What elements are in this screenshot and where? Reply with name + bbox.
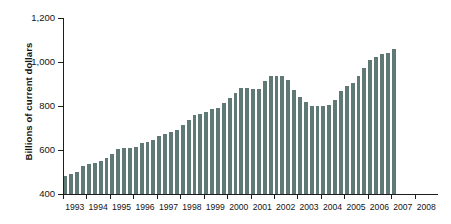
bar [310,106,315,194]
y-axis-tick-label: 600 [1,144,55,155]
bar [110,154,115,194]
x-axis-tick [274,194,275,199]
bar [298,97,303,194]
x-axis-tick [321,194,322,199]
bar [239,88,244,194]
bar [146,142,151,194]
y-axis-tick-label: 1,200 [1,12,55,23]
x-axis-tick [227,194,228,199]
bar [134,147,139,194]
bar [187,120,192,194]
bar [157,136,162,194]
plot-area: 4006008001,0001,200 19931994199519961997… [63,18,438,194]
bar [269,76,274,194]
x-axis-tick [133,194,134,199]
bar [357,76,362,194]
x-axis-tick [368,194,369,199]
bar [198,114,203,194]
x-axis-tick [297,194,298,199]
bar [386,53,391,194]
x-axis-tick [110,194,111,199]
bar [222,103,227,194]
x-axis-tick [344,194,345,199]
bar [175,130,180,194]
bar [99,161,104,194]
bar [81,166,86,194]
bar [362,68,367,194]
bar [327,105,332,194]
bar [245,88,250,194]
bar [151,140,156,194]
x-axis-tick [63,194,64,199]
bar [321,106,326,194]
bar [234,93,239,194]
bar [169,132,174,194]
bar [263,81,268,194]
bar [339,91,344,194]
x-axis-tick-label: 2008 [406,202,446,212]
bar [374,57,379,194]
bar [292,90,297,195]
y-axis-tick-label: 400 [1,188,55,199]
bar [64,176,69,194]
y-axis-tick-label: 800 [1,100,55,111]
bar [275,76,280,194]
bar [87,164,92,194]
bar [216,108,221,194]
bar [163,134,168,194]
bar [116,149,121,194]
bar [251,89,256,194]
bar [257,89,262,194]
bar [228,98,233,194]
bar [140,143,145,194]
bar [105,158,110,194]
y-axis-tick [58,150,64,151]
bar [193,115,198,194]
bar [286,80,291,194]
bar [204,112,209,194]
bar [93,163,98,194]
y-axis-tick [58,106,64,107]
bar [128,148,133,194]
bar [181,125,186,194]
bar [368,60,373,194]
bar [351,83,356,194]
bar [392,49,397,194]
x-axis-tick [157,194,158,199]
y-axis-tick-label: 1,000 [1,56,55,67]
y-axis-tick [58,18,64,19]
bar [316,106,321,194]
x-axis-tick [180,194,181,199]
x-axis-tick [251,194,252,199]
bar [380,54,385,194]
quarterly-bar-chart: Billions of current dollars 4006008001,0… [0,0,451,224]
bar [333,100,338,194]
bar [304,102,309,194]
bar [75,172,80,194]
bar [210,109,215,194]
x-axis-tick [415,194,416,199]
bar [122,148,127,194]
x-axis-tick [391,194,392,199]
bar [69,174,74,194]
x-axis-tick [204,194,205,199]
bar [280,76,285,194]
y-axis-tick [58,62,64,63]
x-axis-tick [86,194,87,199]
bar [345,86,350,194]
